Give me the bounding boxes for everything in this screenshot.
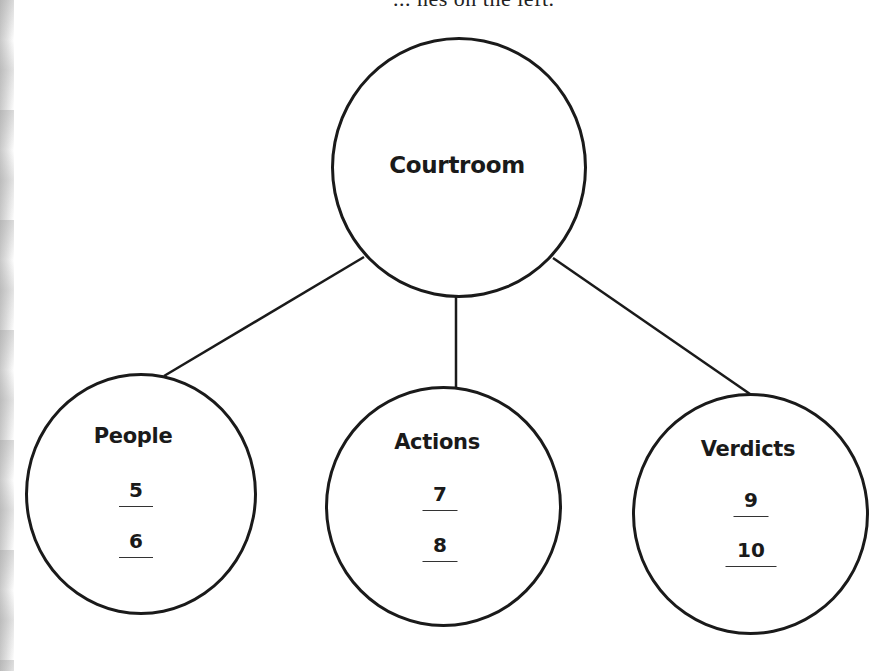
blank-10[interactable]: 10	[726, 540, 777, 567]
blank-number: 6	[119, 531, 153, 551]
answer-line[interactable]	[119, 557, 153, 558]
blank-6[interactable]: 6	[119, 531, 153, 558]
blank-5[interactable]: 5	[119, 480, 153, 507]
answer-line[interactable]	[423, 510, 458, 511]
blank-number: 10	[726, 540, 777, 560]
answer-line[interactable]	[734, 516, 769, 517]
blank-number: 8	[423, 535, 458, 555]
verdicts-node-label: Verdicts	[701, 437, 796, 461]
blank-8[interactable]: 8	[423, 535, 458, 562]
blank-9[interactable]: 9	[734, 490, 769, 517]
blank-number: 5	[119, 480, 153, 500]
people-node-label: People	[94, 424, 173, 448]
answer-line[interactable]	[423, 561, 458, 562]
root-node-label: Courtroom	[389, 152, 525, 178]
connector-verdicts	[553, 258, 750, 394]
answer-line[interactable]	[726, 566, 777, 567]
blank-number: 9	[734, 490, 769, 510]
blank-number: 7	[423, 484, 458, 504]
actions-node-label: Actions	[394, 430, 480, 454]
blank-7[interactable]: 7	[423, 484, 458, 511]
connector-people	[164, 257, 364, 376]
answer-line[interactable]	[119, 506, 153, 507]
